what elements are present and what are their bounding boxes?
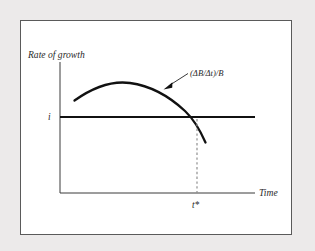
optimal-time-label: t* — [192, 200, 200, 210]
curve-annotation-leader-line — [170, 74, 188, 86]
growth-rate-chart: Rate of growth Time i t* (ΔB/Δt)/B — [0, 0, 315, 251]
x-axis-label: Time — [259, 187, 278, 198]
curve-annotation-label: (ΔB/Δt)/B — [190, 68, 224, 78]
y-axis-label: Rate of growth — [27, 49, 85, 60]
growth-rate-curve — [75, 82, 206, 142]
figure-page: Rate of growth Time i t* (ΔB/Δt)/B — [0, 0, 315, 251]
curve-annotation-arrow-icon — [164, 82, 173, 89]
interest-rate-label: i — [48, 112, 51, 122]
